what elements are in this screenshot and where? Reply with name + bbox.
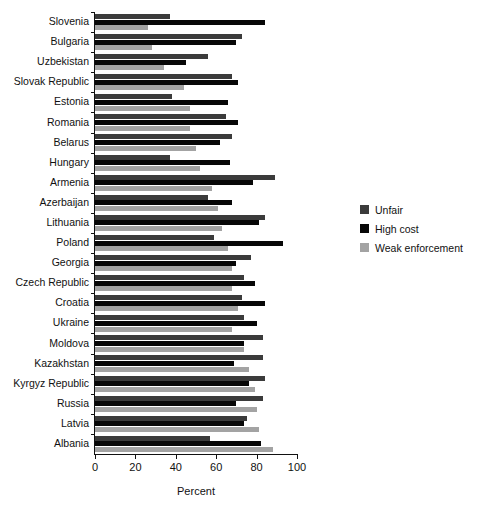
plot-area	[95, 12, 297, 454]
y-axis-tick	[91, 173, 95, 174]
y-axis-tick	[91, 12, 95, 13]
y-axis-label: Azerbaijan	[39, 197, 89, 208]
x-axis-tick	[216, 455, 217, 459]
bar-highcost	[95, 421, 244, 426]
y-axis-tick	[91, 233, 95, 234]
bar-highcost	[95, 60, 186, 65]
legend-swatch-icon	[360, 243, 369, 252]
bar-weak	[95, 286, 232, 291]
bar-weak	[95, 206, 218, 211]
bar-unfair	[95, 235, 214, 240]
bar-highcost	[95, 281, 255, 286]
bar-highcost	[95, 140, 220, 145]
bar-unfair	[95, 396, 263, 401]
bar-group	[95, 293, 297, 313]
bar-weak	[95, 387, 255, 392]
legend-label: High cost	[375, 223, 419, 235]
legend-label: Weak enforcement	[375, 242, 463, 254]
x-axis-tick-label: 80	[237, 461, 277, 474]
y-axis-tick	[91, 293, 95, 294]
y-axis-label: Estonia	[54, 96, 89, 107]
bar-group	[95, 133, 297, 153]
legend-item: Unfair	[360, 200, 478, 219]
y-axis-tick	[91, 394, 95, 395]
chart-legend: UnfairHigh costWeak enforcement	[360, 200, 478, 257]
bar-unfair	[95, 74, 232, 79]
x-axis-tick-label: 0	[75, 461, 115, 474]
bar-weak	[95, 146, 196, 151]
bar-weak	[95, 306, 238, 311]
y-axis-label: Belarus	[53, 137, 89, 148]
bar-highcost	[95, 160, 230, 165]
y-axis-tick	[91, 414, 95, 415]
bar-unfair	[95, 175, 275, 180]
bar-unfair	[95, 14, 170, 19]
legend-item: Weak enforcement	[360, 238, 478, 257]
bar-weak	[95, 367, 249, 372]
bar-weak	[95, 246, 228, 251]
bar-weak	[95, 126, 190, 131]
y-axis-label: Ukraine	[53, 317, 89, 328]
bar-highcost	[95, 20, 265, 25]
bar-unfair	[95, 315, 244, 320]
x-axis-tick-label: 20	[115, 461, 155, 474]
legend-swatch-icon	[360, 205, 369, 214]
y-axis-tick	[91, 52, 95, 53]
bar-weak	[95, 427, 259, 432]
y-axis-tick	[91, 193, 95, 194]
bar-highcost	[95, 381, 249, 386]
bar-weak	[95, 166, 200, 171]
bar-weak	[95, 407, 257, 412]
x-axis-ticks	[95, 455, 297, 460]
x-axis-tick	[95, 455, 96, 459]
bar-group	[95, 92, 297, 112]
bar-unfair	[95, 134, 232, 139]
y-axis-tick	[91, 374, 95, 375]
bar-weak	[95, 347, 244, 352]
bar-group	[95, 173, 297, 193]
bar-unfair	[95, 54, 208, 59]
x-axis-title: Percent	[95, 485, 297, 497]
bar-group	[95, 233, 297, 253]
bar-unfair	[95, 416, 247, 421]
y-axis-label: Slovak Republic	[14, 76, 89, 87]
y-axis-label: Russia	[57, 398, 89, 409]
bar-group	[95, 153, 297, 173]
y-axis-label: Uzbekistan	[37, 56, 89, 67]
x-axis-tick-label: 100	[277, 461, 317, 474]
y-axis-tick	[91, 354, 95, 355]
y-axis-label: Kazakhstan	[34, 358, 89, 369]
bar-weak	[95, 85, 184, 90]
y-axis-tick	[91, 112, 95, 113]
y-axis-tick	[91, 92, 95, 93]
y-axis-label: Croatia	[55, 297, 89, 308]
y-axis-label: Bulgaria	[50, 36, 89, 47]
bar-highcost	[95, 361, 234, 366]
chart-figure: SloveniaBulgariaUzbekistanSlovak Republi…	[0, 0, 479, 508]
bar-unfair	[95, 275, 244, 280]
bar-group	[95, 374, 297, 394]
legend-label: Unfair	[375, 204, 403, 216]
y-axis-tick	[91, 72, 95, 73]
y-axis-tick	[91, 313, 95, 314]
x-axis-tick-label: 60	[196, 461, 236, 474]
legend-item: High cost	[360, 219, 478, 238]
bar-group	[95, 253, 297, 273]
bar-group	[95, 414, 297, 434]
bar-highcost	[95, 180, 253, 185]
y-axis-label: Kyrgyz Republic	[13, 378, 89, 389]
y-axis-tick	[91, 133, 95, 134]
bar-group	[95, 354, 297, 374]
y-axis-label: Armenia	[50, 177, 89, 188]
x-axis-tick	[176, 455, 177, 459]
y-axis-tick	[91, 434, 95, 435]
bar-highcost	[95, 241, 283, 246]
y-axis-label: Slovenia	[49, 16, 89, 27]
bar-weak	[95, 25, 148, 30]
bar-unfair	[95, 215, 265, 220]
y-axis-tick-labels: SloveniaBulgariaUzbekistanSlovak Republi…	[0, 12, 89, 454]
bar-unfair	[95, 436, 210, 441]
y-axis-tick	[91, 153, 95, 154]
bar-group	[95, 213, 297, 233]
bar-group	[95, 193, 297, 213]
